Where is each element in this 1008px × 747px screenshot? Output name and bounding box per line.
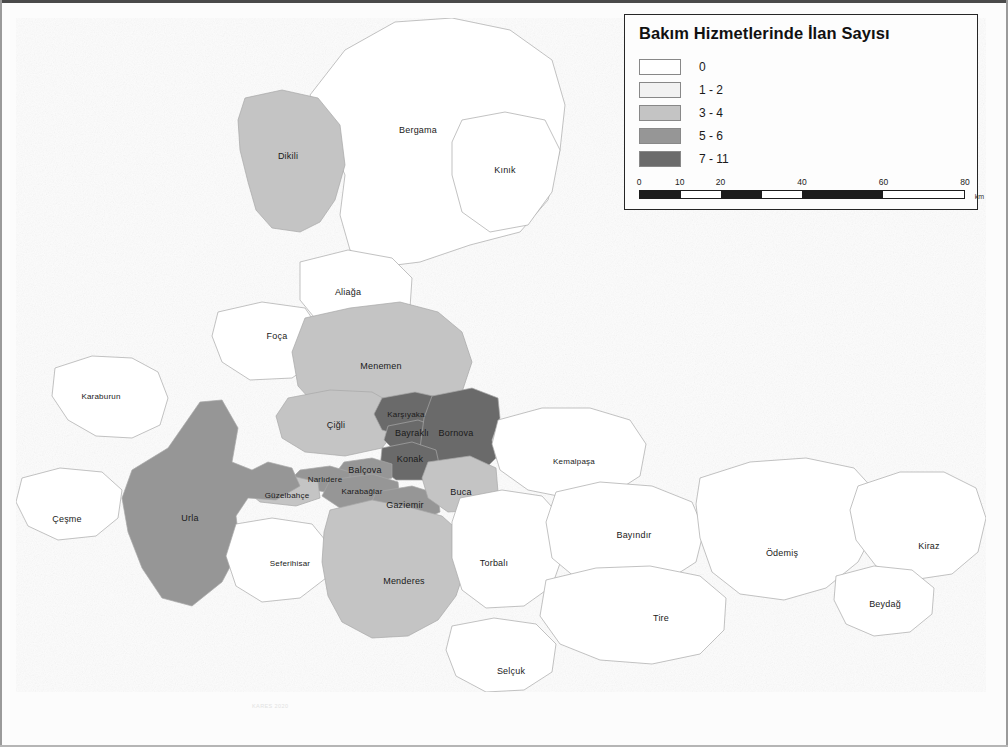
legend-label-0: 0 <box>699 60 706 74</box>
scale-tick-1: 10 <box>675 177 684 187</box>
district-label-narlıdere: Narlıdere <box>308 475 343 484</box>
scale-unit-label: km <box>975 193 984 200</box>
district-label-bergama: Bergama <box>399 125 437 135</box>
scale-tick-0: 0 <box>637 177 642 187</box>
legend-row-2[interactable]: 3 - 4 <box>639 101 729 124</box>
district-label-kemalpaşa: Kemalpaşa <box>553 457 595 466</box>
district-label-çeşme: Çeşme <box>52 514 82 524</box>
legend-label-2: 3 - 4 <box>699 106 723 120</box>
district-label-ödemiş: Ödemiş <box>766 548 798 558</box>
scale-tick-5: 80 <box>960 177 969 187</box>
district-label-menderes: Menderes <box>383 576 425 586</box>
district-label-karaburun: Karaburun <box>81 392 120 401</box>
legend-swatch-2 <box>639 105 681 121</box>
district-label-konak: Konak <box>397 454 424 464</box>
district-dikili[interactable] <box>238 90 345 232</box>
scale-bar-group: 01020406080 km <box>639 177 965 199</box>
legend-items: 01 - 23 - 45 - 67 - 11 <box>639 55 729 170</box>
legend-row-1[interactable]: 1 - 2 <box>639 78 729 101</box>
legend-row-0[interactable]: 0 <box>639 55 729 78</box>
district-label-buca: Buca <box>450 487 471 497</box>
district-kiraz[interactable] <box>850 472 986 580</box>
legend-swatch-1 <box>639 82 681 98</box>
district-label-bornova: Bornova <box>439 428 474 438</box>
district-label-dikili: Dikili <box>278 151 298 161</box>
scale-tick-labels: 01020406080 <box>639 177 965 190</box>
legend-swatch-0 <box>639 59 681 75</box>
legend-swatch-3 <box>639 128 681 144</box>
legend-row-3[interactable]: 5 - 6 <box>639 124 729 147</box>
district-label-beydağ: Beydağ <box>869 599 901 609</box>
district-label-karşıyaka: Karşıyaka <box>387 410 424 419</box>
legend-title: Bakım Hizmetlerinde İlan Sayısı <box>639 24 890 43</box>
district-label-balçova: Balçova <box>348 465 381 475</box>
legend-box: Bakım Hizmetlerinde İlan Sayısı 01 - 23 … <box>624 14 978 210</box>
legend-row-4[interactable]: 7 - 11 <box>639 147 729 170</box>
district-label-bayraklı: Bayraklı <box>395 428 429 438</box>
district-label-urla: Urla <box>181 513 198 523</box>
scale-tick-4: 60 <box>879 177 888 187</box>
district-label-karabağlar: Karabağlar <box>341 487 382 496</box>
district-label-kiraz: Kiraz <box>918 541 940 551</box>
district-label-aliağa: Aliağa <box>335 287 361 297</box>
district-menderes[interactable] <box>322 500 466 638</box>
district-label-bayındır: Bayındır <box>616 530 651 540</box>
scale-tick-2: 20 <box>716 177 725 187</box>
legend-label-4: 7 - 11 <box>699 152 729 166</box>
district-label-selçuk: Selçuk <box>497 666 525 676</box>
district-cesme[interactable] <box>16 468 122 540</box>
legend-label-3: 5 - 6 <box>699 129 723 143</box>
district-label-torbalı: Torbalı <box>480 558 508 568</box>
district-label-çiğli: Çiğli <box>327 420 346 430</box>
district-selcuk[interactable] <box>446 618 556 692</box>
district-label-foça: Foça <box>267 331 288 341</box>
district-label-kınık: Kınık <box>494 165 516 175</box>
district-label-gaziemir: Gaziemir <box>386 500 424 510</box>
scale-tick-3: 40 <box>797 177 806 187</box>
district-tire[interactable] <box>540 566 726 664</box>
district-label-güzelbahçe: Güzelbahçe <box>265 491 310 500</box>
legend-label-1: 1 - 2 <box>699 83 723 97</box>
legend-swatch-4 <box>639 151 681 167</box>
district-label-tire: Tire <box>653 613 669 623</box>
district-label-seferihisar: Seferihisar <box>270 559 310 568</box>
map-page: BergamaKınıkDikiliAliağaFoçaMenemenÇiğli… <box>0 0 1008 747</box>
district-label-menemen: Menemen <box>360 361 401 371</box>
map-watermark: KARES 2020 <box>252 703 288 709</box>
scale-bar <box>639 190 965 199</box>
